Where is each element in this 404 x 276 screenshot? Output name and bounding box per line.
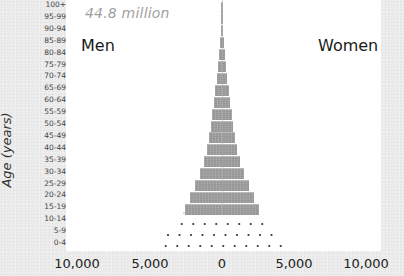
age-group-label: 65-69: [44, 84, 66, 92]
women-bar: [222, 97, 230, 108]
women-bar: [222, 132, 235, 143]
women-bar: [222, 13, 223, 24]
women-bar: [222, 156, 240, 167]
age-group-label: 20-24: [44, 191, 66, 199]
women-bar: [222, 180, 249, 191]
women-bar: [222, 85, 229, 96]
age-group-label: 40-44: [44, 144, 66, 152]
total-population-label: 44.8 million: [85, 5, 170, 21]
women-bar: [222, 121, 233, 132]
age-group-label: 90-94: [44, 25, 66, 33]
age-group-label: 10-14: [44, 215, 66, 223]
age-group-label: 60-64: [44, 96, 66, 104]
age-group-label: 5-9: [54, 227, 66, 235]
age-group-label: 95-99: [44, 13, 66, 21]
age-group-label: 25-29: [44, 180, 66, 188]
women-bar: [222, 2, 223, 13]
women-bar: [222, 25, 223, 36]
age-group-label: 55-59: [44, 108, 66, 116]
x-tick-label: 5,000: [275, 256, 312, 271]
age-group-label: 35-39: [44, 156, 66, 164]
x-tick-label: 0: [218, 256, 226, 271]
women-bar: [222, 73, 227, 84]
age-group-label: 70-74: [44, 72, 66, 80]
men-label: Men: [81, 36, 115, 55]
x-tick-label: 5,000: [131, 256, 168, 271]
age-group-label: 75-79: [44, 61, 66, 69]
men-bar: [190, 192, 222, 203]
men-bar: [215, 85, 222, 96]
age-group-label: 85-89: [44, 37, 66, 45]
age-group-label: 30-34: [44, 168, 66, 176]
men-bar: [195, 180, 222, 191]
men-bar: [214, 97, 222, 108]
women-bar: [222, 37, 224, 48]
men-bar: [209, 132, 222, 143]
women-label: Women: [318, 36, 378, 55]
age-group-label: 50-54: [44, 120, 66, 128]
women-bar: [222, 61, 226, 72]
women-bar: [222, 168, 244, 179]
women-bar: [222, 144, 237, 155]
women-bar: [222, 109, 232, 120]
men-bar: [204, 156, 222, 167]
age-group-label: 45-49: [44, 132, 66, 140]
age-group-label: 0-4: [54, 239, 66, 247]
women-bar: [222, 49, 225, 60]
men-bar: [211, 121, 222, 132]
age-group-label: 80-84: [44, 49, 66, 57]
x-tick-label: 10,000: [54, 256, 100, 271]
y-axis-title-text: Age (years): [0, 112, 14, 187]
men-bar: [200, 168, 222, 179]
women-bar: [222, 192, 254, 203]
x-tick-label: 10,000: [343, 256, 389, 271]
men-bar: [212, 109, 222, 120]
men-bar: [207, 144, 222, 155]
age-group-label: 15-19: [44, 203, 66, 211]
age-group-label: 100+: [45, 1, 66, 9]
dotted-projection-area: [160, 211, 290, 251]
